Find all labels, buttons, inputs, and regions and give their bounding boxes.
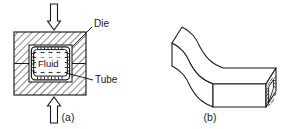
caption-panel-b: (b) <box>204 111 217 123</box>
tube-label: Tube <box>95 74 118 85</box>
panel-a: Fluid Die Tube (a) <box>14 4 118 123</box>
figure-root: Fluid Die Tube (a) <box>0 0 285 129</box>
fluid-label: Fluid <box>38 58 59 69</box>
tube-side-face <box>213 84 266 107</box>
caption-panel-a: (a) <box>62 111 75 123</box>
top-force-arrow <box>48 4 61 30</box>
panel-b: (b) <box>172 27 276 123</box>
die-label: Die <box>94 18 109 29</box>
fluid-label-group: Fluid <box>37 58 65 70</box>
hydroforming-diagram: Fluid Die Tube (a) <box>0 0 285 129</box>
bottom-force-arrow <box>48 97 61 123</box>
